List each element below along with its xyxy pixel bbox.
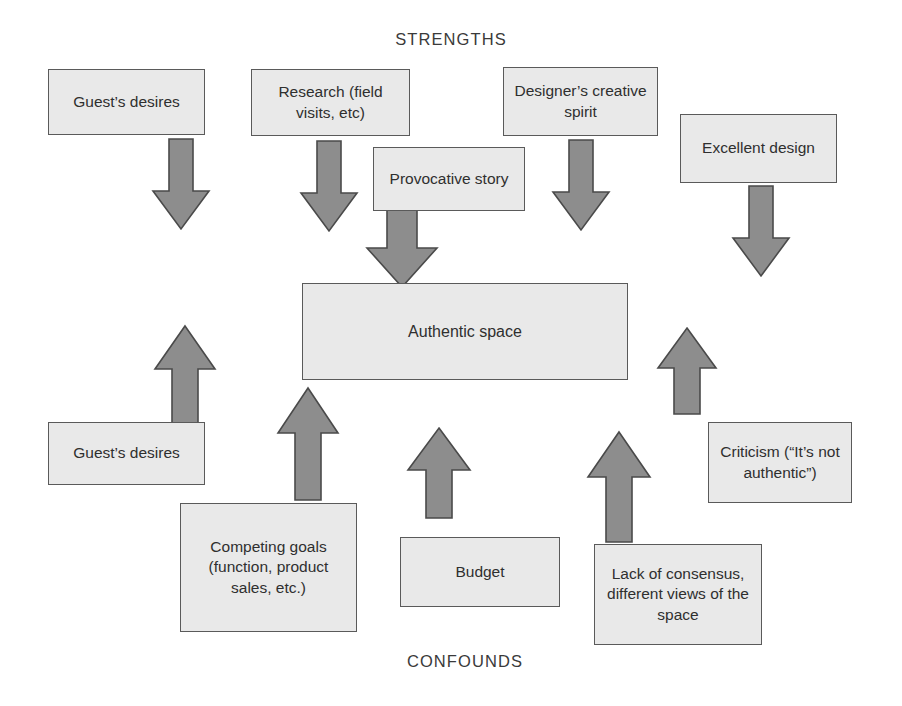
arrow-guests-desires-top-down xyxy=(153,139,209,229)
arrow-excellent-design-down xyxy=(733,186,789,276)
arrow-research-down xyxy=(301,141,357,231)
arrow-guests-desires-bottom-up xyxy=(155,326,215,425)
strengths-section-label: STRENGTHS xyxy=(0,30,902,49)
node-budget[interactable]: Budget xyxy=(400,537,560,607)
node-research[interactable]: Research (field visits, etc) xyxy=(251,69,410,136)
diagram-canvas: STRENGTHS CONFOUNDS xyxy=(0,0,902,706)
node-criticism[interactable]: Criticism (“It’s not authentic”) xyxy=(708,422,852,503)
node-guests-desires-top[interactable]: Guest’s desires xyxy=(48,69,205,135)
node-authentic-space[interactable]: Authentic space xyxy=(302,283,628,380)
node-excellent-design[interactable]: Excellent design xyxy=(680,114,837,183)
node-competing-goals[interactable]: Competing goals (function, product sales… xyxy=(180,503,357,632)
arrow-budget-up xyxy=(408,428,470,518)
node-guests-desires-bottom[interactable]: Guest’s desires xyxy=(48,422,205,485)
node-provocative-story[interactable]: Provocative story xyxy=(373,147,525,211)
arrow-lack-of-consensus-up xyxy=(588,432,650,542)
arrow-designers-spirit-down xyxy=(553,140,609,230)
confounds-section-label: CONFOUNDS xyxy=(335,652,595,671)
arrow-competing-goals-up xyxy=(278,388,338,500)
node-designers-creative-spirit[interactable]: Designer’s creative spirit xyxy=(503,67,658,136)
arrow-criticism-up xyxy=(658,328,716,414)
node-lack-of-consensus[interactable]: Lack of consensus, different views of th… xyxy=(594,544,762,645)
